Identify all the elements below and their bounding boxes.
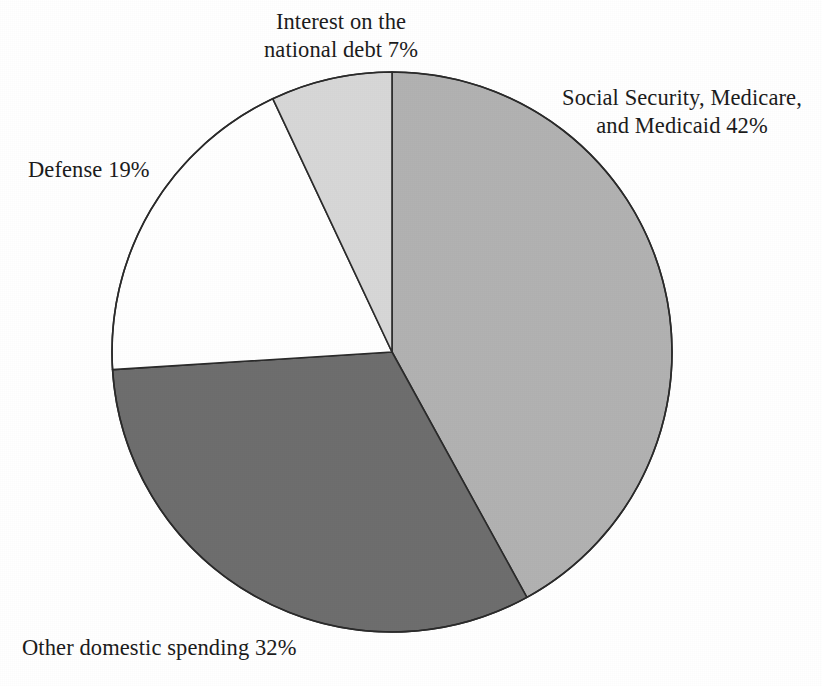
slice-label-interest: Interest on the national debt 7% [212, 8, 470, 64]
slice-label-social-security-line2: and Medicaid 42% [548, 112, 816, 140]
slice-label-social-security-line1: Social Security, Medicare, [548, 84, 816, 112]
slice-label-other-domestic: Other domestic spending 32% [22, 634, 297, 662]
slice-label-interest-line1: Interest on the [212, 8, 470, 36]
slice-label-defense: Defense 19% [28, 156, 150, 184]
pie-slice-group [112, 72, 672, 632]
slice-label-other-domestic-line1: Other domestic spending 32% [22, 634, 297, 662]
slice-label-interest-line2: national debt 7% [212, 36, 470, 64]
slice-label-social-security: Social Security, Medicare, and Medicaid … [548, 84, 816, 140]
slice-label-defense-line1: Defense 19% [28, 156, 150, 184]
pie-chart-figure: Interest on the national debt 7% Social … [0, 0, 822, 686]
